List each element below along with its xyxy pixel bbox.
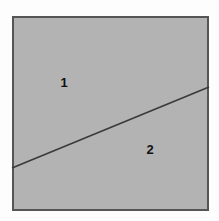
region-label-1: 1: [60, 75, 67, 90]
figure-canvas: 1 2: [0, 0, 219, 221]
figure-container: 1 2: [0, 0, 219, 221]
outer-square: [13, 17, 208, 210]
region-label-2: 2: [146, 142, 153, 157]
